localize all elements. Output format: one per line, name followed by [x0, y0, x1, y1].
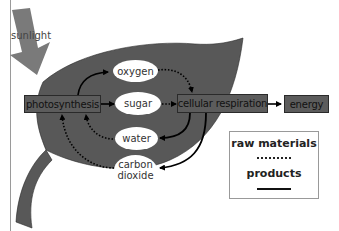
legend-products-label: products [230, 167, 318, 180]
sunlight-arrow-icon [10, 8, 50, 75]
sunlight-label: sunlight [11, 30, 51, 41]
carbon-dioxide-oval: carbon dioxide [114, 155, 157, 185]
leaf-stem [16, 150, 52, 228]
carbon-dioxide-line1: carbon [118, 159, 153, 170]
carbon-dioxide-line2: dioxide [117, 170, 153, 181]
legend: raw materials products [229, 131, 319, 199]
diagram-canvas: sunlight photosynthesis cellular respira… [0, 0, 339, 231]
oxygen-oval: oxygen [113, 60, 158, 82]
sugar-oval: sugar [115, 92, 161, 115]
photosynthesis-box: photosynthesis [24, 95, 101, 113]
energy-box: energy [284, 95, 329, 113]
water-oval: water [115, 127, 158, 150]
legend-dotted-line [257, 157, 291, 159]
legend-solid-line [257, 188, 291, 190]
cellular-respiration-box: cellular respiration [177, 94, 268, 113]
legend-raw-materials-label: raw materials [230, 137, 318, 150]
